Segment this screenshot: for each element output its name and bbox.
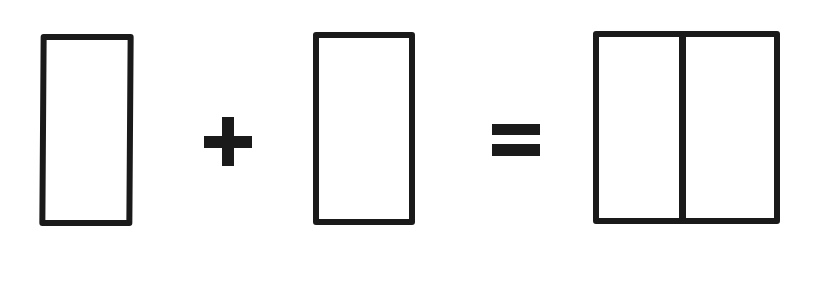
equals-top-bar — [492, 124, 540, 135]
left-rectangle — [39, 34, 133, 226]
equals-icon: = — [492, 124, 540, 157]
middle-rectangle — [313, 32, 415, 225]
plus-vertical-bar — [222, 117, 234, 166]
plus-icon: + — [204, 117, 252, 166]
combined-rectangle — [593, 31, 780, 224]
combined-divider — [679, 37, 686, 218]
equals-bottom-bar — [492, 144, 540, 156]
